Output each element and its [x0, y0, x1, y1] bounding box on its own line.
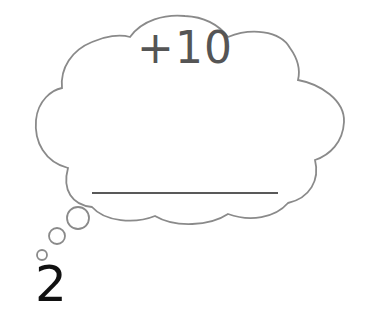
operation-label: +10	[130, 18, 240, 78]
start-number: 2	[34, 254, 68, 314]
thought-bubble-medium	[49, 228, 65, 244]
thought-bubble-large	[67, 207, 89, 229]
